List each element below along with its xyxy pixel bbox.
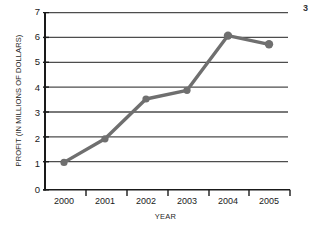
y-axis-tick-labels: 7 6 5 4 3 2 1 0 — [14, 0, 40, 234]
x-tick-2002: 2002 — [126, 196, 166, 206]
y-tick-3: 3 — [26, 108, 40, 118]
x-axis-label: YEAR — [43, 212, 288, 221]
y-tick-7: 7 — [26, 7, 40, 17]
data-point-2005 — [265, 40, 273, 48]
x-tick-2005: 2005 — [249, 196, 289, 206]
chart-svg — [43, 12, 293, 217]
gridlines — [45, 13, 288, 162]
edge-page-number: 3 — [303, 3, 309, 17]
y-tick-1: 1 — [26, 159, 40, 169]
x-tick-2004: 2004 — [208, 196, 248, 206]
data-point-2001 — [101, 135, 108, 142]
data-series-line — [64, 36, 269, 163]
x-tick-2001: 2001 — [85, 196, 125, 206]
data-point-2003 — [183, 87, 190, 94]
y-tick-4: 4 — [26, 83, 40, 93]
line-chart-figure: PROFIT (IN MILLIONS OF DOLLARS) 7 6 5 4 … — [0, 0, 310, 234]
y-tick-0: 0 — [26, 185, 40, 195]
x-tick-2003: 2003 — [167, 196, 207, 206]
y-tick-5: 5 — [26, 57, 40, 67]
y-tick-6: 6 — [26, 32, 40, 42]
plot-area — [43, 12, 288, 190]
data-point-2000 — [60, 159, 67, 166]
y-tick-2: 2 — [26, 134, 40, 144]
data-point-2004 — [224, 31, 232, 39]
data-point-2002 — [142, 95, 149, 102]
x-tick-2000: 2000 — [44, 196, 84, 206]
